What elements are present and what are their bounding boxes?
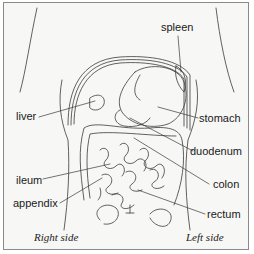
label-rectum: rectum <box>207 209 241 220</box>
pelvis <box>97 205 171 226</box>
leader-rectum <box>138 190 205 214</box>
leader-ileum <box>43 164 110 179</box>
leader-appendix <box>60 178 102 203</box>
appendix-shape <box>98 188 101 200</box>
label-right-side: Right side <box>34 232 78 243</box>
stomach-fold <box>135 75 140 100</box>
leader-liver <box>39 101 95 117</box>
leader-duodenum <box>130 118 193 151</box>
label-duodenum: duodenum <box>190 146 242 157</box>
label-stomach: stomach <box>199 113 241 124</box>
label-appendix: appendix <box>13 198 58 209</box>
leader-spleen <box>178 36 181 72</box>
label-colon: colon <box>213 179 239 190</box>
label-ileum: ileum <box>16 175 42 186</box>
label-left-side: Left side <box>186 232 224 243</box>
label-spleen: spleen <box>161 22 193 33</box>
duodenum-shape <box>115 110 150 127</box>
liver-shape <box>90 95 104 110</box>
colon-shape <box>80 125 183 205</box>
small-intestine <box>100 143 164 208</box>
label-liver: liver <box>16 111 36 122</box>
